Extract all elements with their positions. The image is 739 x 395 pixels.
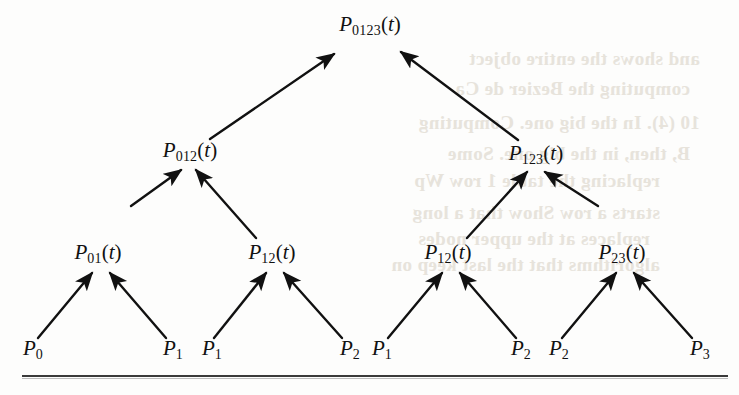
node-base: P [340, 336, 353, 360]
node-subscript: 0 [36, 347, 43, 362]
node-p3: P3 [690, 338, 710, 362]
arrow-p2-to-p12a [284, 273, 342, 338]
node-subscript: 2 [562, 347, 569, 362]
node-p2: P2 [549, 338, 569, 362]
node-base: P [163, 336, 176, 360]
arrow-p12a-to-p012 [196, 170, 256, 238]
node-p2: P2 [511, 338, 531, 362]
node-base: P [549, 336, 562, 360]
arrow-p1-to-p12a [214, 273, 266, 338]
node-p2: P2 [340, 338, 360, 362]
node-p1: P1 [372, 338, 392, 362]
node-base: P [598, 240, 611, 264]
node-argument: (t) [102, 240, 122, 264]
arrow-p1-to-p12b [388, 273, 442, 338]
node-subscript: 123 [522, 152, 544, 167]
node-base: P [424, 240, 437, 264]
node-p1: P1 [163, 338, 183, 362]
arrow-p01-to-p012 [131, 170, 181, 206]
node-base: P [509, 141, 522, 165]
arrow-p3-to-p23 [634, 273, 692, 338]
node-p1: P1 [202, 338, 222, 362]
node-p0: P0 [23, 338, 43, 362]
node-subscript: 23 [611, 251, 625, 266]
node-base: P [372, 336, 385, 360]
node-argument: (t) [626, 240, 646, 264]
arrow-p0-to-p01 [38, 273, 92, 338]
node-p0123-of-t: P0123(t) [339, 14, 400, 38]
figure-canvas: and shows the entire objectcomputing the… [0, 0, 739, 395]
arrow-p1-to-p01 [110, 273, 166, 338]
arrow-p12b-to-p123 [467, 172, 527, 238]
node-base: P [23, 336, 36, 360]
node-argument: (t) [381, 12, 401, 36]
node-p012-of-t: P012(t) [163, 140, 217, 164]
arrow-p23-to-p123 [545, 172, 598, 206]
node-base: P [163, 138, 176, 162]
node-base: P [339, 12, 352, 36]
node-base: P [248, 240, 261, 264]
node-base: P [202, 336, 215, 360]
node-argument: (t) [197, 138, 217, 162]
node-subscript: 1 [385, 347, 392, 362]
arrow-layer [0, 0, 739, 395]
arrow-p2-to-p12b [460, 273, 516, 338]
arrow-p2-to-p23 [562, 273, 616, 338]
node-argument: (t) [452, 240, 472, 264]
page-bottom-rule [22, 375, 728, 377]
node-subscript: 12 [261, 251, 275, 266]
arrow-p123-to-p0123 [401, 52, 518, 140]
node-p01-of-t: P01(t) [74, 242, 121, 266]
node-p123-of-t: P123(t) [509, 143, 563, 167]
node-subscript: 2 [353, 347, 360, 362]
node-p12-of-t: P12(t) [424, 242, 471, 266]
node-p23-of-t: P23(t) [598, 242, 645, 266]
node-subscript: 1 [215, 347, 222, 362]
node-argument: (t) [543, 141, 563, 165]
node-subscript: 3 [703, 347, 710, 362]
node-subscript: 1 [176, 347, 183, 362]
node-base: P [690, 336, 703, 360]
node-subscript: 0123 [352, 23, 381, 38]
node-subscript: 01 [87, 251, 101, 266]
node-argument: (t) [276, 240, 296, 264]
node-subscript: 12 [437, 251, 451, 266]
node-subscript: 012 [176, 149, 198, 164]
node-base: P [511, 336, 524, 360]
node-p12-of-t: P12(t) [248, 242, 295, 266]
node-base: P [74, 240, 87, 264]
arrow-p012-to-p0123 [210, 54, 334, 139]
node-subscript: 2 [524, 347, 531, 362]
